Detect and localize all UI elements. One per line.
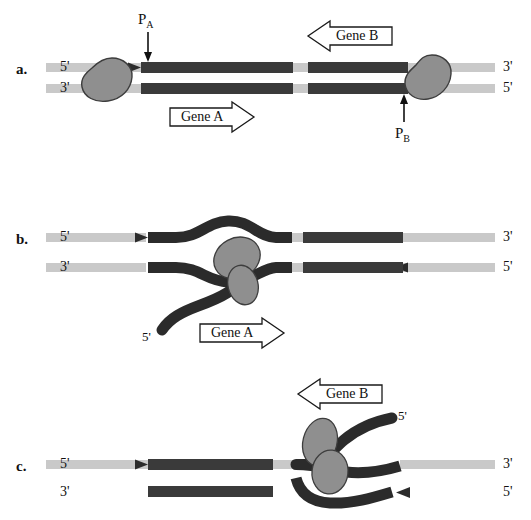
panel-c-graphics [46,379,495,503]
panel-c-top-right-end: 3' [503,457,513,471]
dna-top-backbone-c-right [400,460,495,469]
gene-b-arrow-label-a: Gene B [336,29,378,43]
gene-a-block-top-a [141,62,293,73]
promoter-b-subscript: B [403,133,410,144]
panel-b-letter: b. [16,232,28,247]
panel-c-bottom-right-end: 5' [503,485,513,499]
panel-c-rna-5prime-end: 5' [398,409,407,422]
gene-b-start-arrowhead-c [396,487,410,498]
figure-canvas: a. 5' 3' 3' 5' PA PB Gene A Gene B b. 5'… [0,0,531,520]
panel-c-top-left-end: 5' [60,457,70,471]
gene-a-block-top-c [148,459,273,470]
panel-c-letter: c. [16,459,26,474]
panel-a-top-left-end: 5' [60,60,70,74]
panel-a-bottom-right-end: 5' [503,81,513,95]
diagram-svg [0,0,531,520]
gene-b-block-top-b [303,232,403,243]
panel-b-top-left-end: 5' [60,230,70,244]
panel-b-graphics [46,221,495,348]
panel-b-top-right-end: 3' [503,230,513,244]
gene-a-block-bottom-c [148,486,273,497]
promoter-a-subscript: A [146,19,153,30]
promoter-b-pointer-head [400,94,408,104]
gene-b-block-bottom-a [308,83,408,94]
panel-c-bottom-left-end: 3' [60,485,70,499]
gene-b-block-bottom-b [303,262,403,273]
dna-top-strand-bubble-b [148,221,292,238]
gene-a-arrow-label-a: Gene A [181,110,223,124]
promoter-a-label: PA [138,12,154,30]
gene-b-arrow-label-c: Gene B [326,387,368,401]
panel-a-letter: a. [16,62,27,77]
gene-a-block-bottom-a [141,83,293,94]
panel-a-top-right-end: 3' [503,60,513,74]
panel-a-graphics [46,21,495,132]
gene-a-arrow-label-b: Gene A [211,326,253,340]
panel-b-bottom-right-end: 5' [503,260,513,274]
promoter-a-pointer-head [144,52,152,62]
dna-bottom-backbone-c-right [410,488,495,497]
panel-b-rna-5prime-end: 5' [142,330,151,343]
panel-a-bottom-left-end: 3' [60,81,70,95]
promoter-b-label: PB [395,126,410,144]
gene-b-block-top-a [308,62,408,73]
panel-b-bottom-left-end: 3' [60,260,70,274]
